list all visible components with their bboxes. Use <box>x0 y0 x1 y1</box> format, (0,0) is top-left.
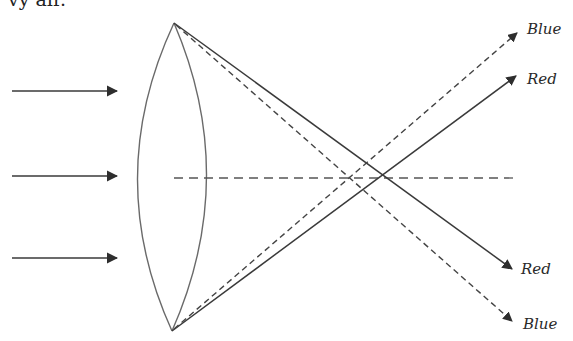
blue-ray-from-top <box>176 25 512 321</box>
label-red-top: Red <box>527 72 557 87</box>
convex-lens <box>137 23 206 331</box>
label-red-bottom: Red <box>521 262 551 277</box>
incident-rays <box>12 91 117 258</box>
red-ray-from-bottom <box>172 76 516 331</box>
label-blue-bottom: Blue <box>523 317 557 332</box>
blue-rays <box>174 25 517 329</box>
blue-ray-from-bottom <box>174 33 517 329</box>
lens-diagram <box>0 0 573 341</box>
red-rays <box>172 23 516 331</box>
label-blue-top: Blue <box>527 22 561 37</box>
red-ray-from-top <box>174 23 512 269</box>
